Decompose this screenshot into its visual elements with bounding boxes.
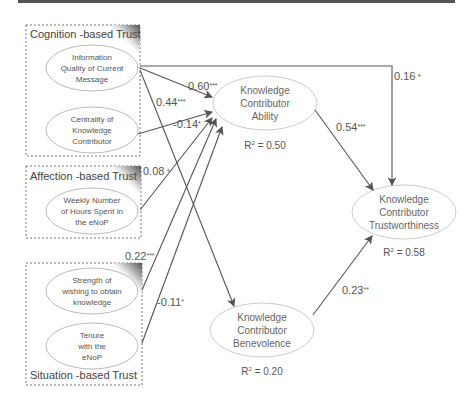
affection-group-title: Affection -based Trust	[30, 170, 137, 182]
path-benevolence-trust	[313, 236, 372, 315]
coef-info-benevolence: 0.44***	[156, 96, 186, 108]
benevolence-r2: R2 = 0.20	[241, 366, 282, 377]
weekly-hours-label: Weekly Numberof Hours Spent inthe eNoP	[61, 195, 123, 228]
situation-group-title: Situation -based Trust	[30, 369, 137, 381]
ability-label: KnowledgeContributorAbility	[240, 84, 289, 123]
info-quality-label: InformationQuality of CurrentMessage	[61, 52, 124, 85]
path-tenure-ability	[142, 127, 222, 343]
centrality-label: Centrality ofKnowledgeContributor	[71, 114, 114, 147]
coef-info-ability: 0.60***	[188, 80, 218, 92]
ability-r2: R2 = 0.50	[244, 140, 285, 151]
coef-info-trust: 0.16 +	[394, 70, 421, 82]
coef-ability-trust: 0.54***	[336, 121, 366, 133]
coef-tenure-ability: -0.11*	[157, 296, 184, 308]
path-strength-ability	[142, 119, 216, 290]
cognition-group-title: Cognition -based Trust	[30, 28, 141, 40]
coef-strength-ability: 0.22***	[125, 250, 155, 262]
tenure-label: Tenurewith theeNoP	[78, 330, 106, 363]
coef-weekly-ability: 0.08 +	[143, 165, 170, 177]
coef-benevolence-trust: 0.23**	[342, 284, 369, 296]
strength-label: Strength ofwishing to obtainknowledge	[62, 275, 122, 308]
trustworthiness-r2: R2 = 0.58	[383, 247, 424, 258]
benevolence-label: KnowledgeContributorBenevolence	[233, 311, 291, 350]
path-weekly-ability	[140, 118, 212, 210]
trustworthiness-label: KnowledgeContributorTrustworthiness	[369, 193, 439, 232]
coef-centrality-ability: -0.14*	[173, 118, 201, 130]
